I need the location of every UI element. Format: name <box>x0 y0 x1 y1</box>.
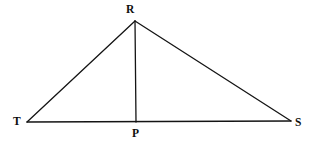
segment-TR <box>27 21 135 122</box>
vertex-label-S: S <box>295 117 302 129</box>
segment-RS <box>135 21 291 121</box>
triangle-diagram-svg <box>0 0 316 150</box>
vertex-label-P: P <box>132 128 139 140</box>
geometry-figure: R T S P <box>0 0 316 150</box>
vertex-label-T: T <box>13 116 21 128</box>
segment-RP-altitude <box>135 21 136 122</box>
segment-TS-base <box>27 121 291 122</box>
vertex-label-R: R <box>126 4 135 16</box>
